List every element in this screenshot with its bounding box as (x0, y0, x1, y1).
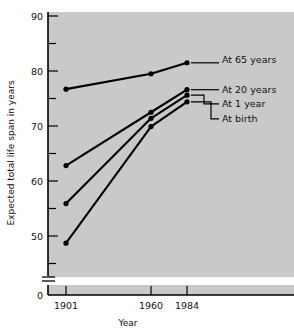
y-tick-label-70: 70 (31, 121, 43, 132)
data-point (148, 110, 153, 115)
x-tick-label-1984: 1984 (175, 300, 199, 311)
data-point (63, 241, 68, 246)
y-axis-title: Expected total life span in years (6, 80, 16, 225)
data-point (148, 124, 153, 129)
y-tick-label-80: 80 (31, 66, 43, 77)
data-point (63, 87, 68, 92)
y-tick-label-50: 50 (31, 231, 43, 242)
data-point (184, 93, 189, 98)
data-point (184, 60, 189, 65)
y-tick-label-60: 60 (31, 176, 43, 187)
life-expectancy-line-chart: 90 80 70 60 50 0 1901 1960 1984 Year Exp… (0, 0, 294, 331)
series-label-at-20-years: At 20 years (222, 84, 276, 95)
x-axis-tick-labels: 1901 1960 1984 (54, 300, 199, 311)
series-label-at-65-years: At 65 years (222, 54, 276, 65)
x-tick-label-1901: 1901 (54, 300, 78, 311)
chart-canvas: 90 80 70 60 50 0 1901 1960 1984 Year Exp… (0, 0, 294, 331)
data-point (148, 71, 153, 76)
y-tick-label-0: 0 (37, 290, 43, 301)
data-point (63, 201, 68, 206)
x-axis-title: Year (117, 318, 137, 328)
series-label-at-birth: At birth (222, 113, 257, 124)
y-tick-label-90: 90 (31, 11, 43, 22)
y-axis-tick-labels: 90 80 70 60 50 0 (31, 11, 43, 301)
series-label-at-1-year: At 1 year (222, 98, 265, 109)
data-point (148, 116, 153, 121)
data-point (63, 163, 68, 168)
x-tick-label-1960: 1960 (139, 300, 163, 311)
y-axis-break-band (48, 277, 294, 285)
data-point (184, 87, 189, 92)
data-point (184, 99, 189, 104)
